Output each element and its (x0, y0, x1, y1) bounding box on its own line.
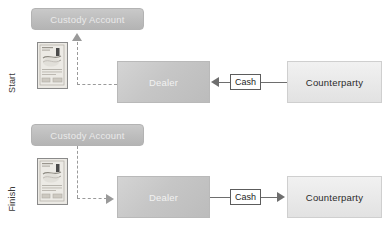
dashed-connector-vertical-start (77, 42, 78, 85)
cash-arrowhead-left-start (211, 77, 219, 87)
cash-connector-right-start (260, 82, 288, 84)
dealer-box-start[interactable]: Dealer (117, 61, 210, 103)
dashed-arrowhead-up-start (72, 33, 82, 41)
row-label-start: Start (7, 63, 17, 103)
cash-label-finish: Cash (235, 192, 256, 202)
security-certificate-icon-finish (37, 158, 68, 205)
custody-account-label-start: Custody Account (50, 14, 124, 25)
custody-account-box-finish[interactable]: Custody Account (31, 124, 144, 146)
counterparty-box-start[interactable]: Counterparty (287, 61, 382, 103)
cash-connector-left-finish (210, 197, 231, 199)
dealer-label-start: Dealer (149, 77, 178, 88)
row-label-finish: Finish (7, 178, 17, 220)
cash-label-start: Cash (235, 77, 256, 87)
dashed-connector-horizontal-finish (77, 198, 107, 199)
counterparty-label-start: Counterparty (306, 77, 363, 88)
security-certificate-icon-start (37, 42, 68, 89)
counterparty-label-finish: Counterparty (306, 192, 363, 203)
dashed-connector-horizontal-start (77, 84, 117, 85)
cash-connector-right-finish (260, 197, 278, 199)
cash-tag-finish[interactable]: Cash (230, 189, 261, 205)
custody-account-label-finish: Custody Account (50, 130, 124, 141)
cash-arrowhead-right-finish (277, 192, 285, 202)
custody-account-box-start[interactable]: Custody Account (31, 8, 144, 30)
cash-tag-start[interactable]: Cash (230, 74, 261, 90)
dealer-box-finish[interactable]: Dealer (117, 176, 210, 218)
counterparty-box-finish[interactable]: Counterparty (287, 176, 382, 218)
dashed-arrowhead-right-finish (106, 194, 114, 204)
dashed-connector-vertical-finish (77, 146, 78, 198)
dealer-label-finish: Dealer (149, 192, 178, 203)
diagram-canvas: Start Custody Account Dealer (0, 0, 387, 236)
